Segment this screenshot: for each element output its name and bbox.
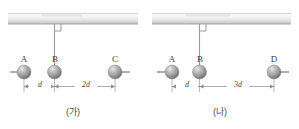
dimension-label-d-ga: d (29, 80, 51, 89)
sphere-label-b-ga: B (45, 54, 65, 64)
sphere-c-ga (108, 65, 130, 79)
sphere-a-ga (10, 65, 31, 79)
physics-figure: A B C d 2d (가) A B D d 3d (나) (0, 0, 299, 129)
sphere-b-na (193, 65, 207, 79)
sphere-a-na (157, 65, 179, 79)
right-angle-marker-na (200, 24, 207, 31)
panel-caption-na: (나) (200, 105, 240, 118)
sphere-label-a-ga: A (14, 54, 34, 64)
sphere-label-a-na: A (162, 54, 182, 64)
dimension-label-3d-na: 3d (227, 80, 249, 89)
panel-ga (8, 13, 138, 92)
sphere-d-na (267, 65, 289, 79)
ceiling-na (152, 13, 291, 24)
panel-caption-ga: (가) (53, 105, 93, 118)
sphere-b-ga (48, 65, 62, 79)
dimension-label-d-na: d (176, 80, 198, 89)
dimension-label-2d-ga: 2d (75, 80, 97, 89)
panel-na (152, 13, 291, 92)
sphere-label-b-na: B (190, 54, 210, 64)
ceiling-ga (8, 13, 138, 24)
sphere-label-c-ga: C (105, 54, 125, 64)
right-angle-marker-ga (55, 24, 62, 31)
sphere-label-d-na: D (264, 54, 284, 64)
figure-canvas (0, 0, 299, 129)
